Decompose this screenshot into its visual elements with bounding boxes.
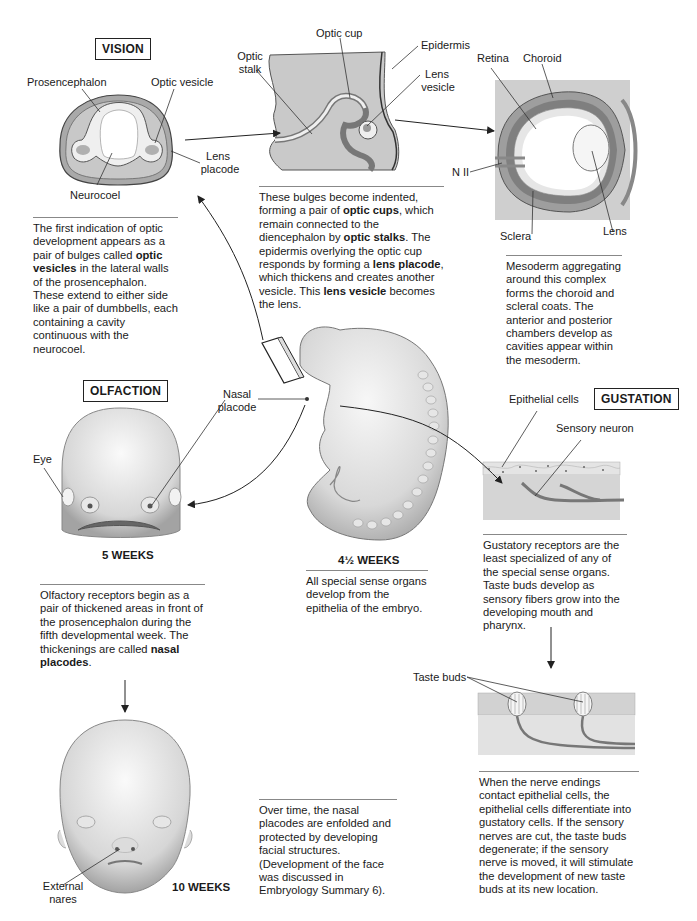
label-external-nares-line2: nares (38, 893, 88, 906)
caption-text: in the lateral walls of the prosencephal… (33, 262, 178, 354)
term-lens-vesicle: lens vesicle (323, 285, 386, 297)
optic-cup-illustration (269, 52, 399, 170)
label-n-ii: N II (452, 166, 469, 179)
vision-title: VISION (95, 38, 151, 60)
caption-embryo: All special sense organs develop from th… (306, 570, 428, 615)
label-optic-vesicle: Optic vesicle (151, 76, 213, 89)
head-10-weeks-illustration (58, 720, 192, 893)
caption-optic-cups: These bulges become indented, forming a … (259, 186, 444, 312)
term-lens-placode: lens placode (373, 258, 441, 270)
embryo-age: 4½ WEEKS (338, 554, 399, 566)
olfaction-title: OLFACTION (83, 380, 168, 402)
label-lens: Lens (603, 225, 627, 238)
label-prosencephalon: Prosencephalon (27, 76, 107, 89)
label-sclera: Sclera (500, 230, 531, 243)
label-lens-vesicle-line2: vesicle (416, 81, 460, 94)
label-epithelial-cells: Epithelial cells (509, 393, 579, 406)
label-nasal-placode-line1: Nasal (217, 388, 257, 401)
caption-taste-buds: When the nerve endings contact epithelia… (479, 771, 639, 897)
caption-enfolded-placodes: Over time, the nasal placodes are enfold… (259, 799, 397, 898)
label-optic-stalk-line2: stalk (230, 63, 270, 76)
embryo-illustration (262, 327, 448, 540)
head-5-weeks-illustration (62, 408, 181, 538)
caption-text: . (89, 656, 92, 668)
age-5-weeks: 5 WEEKS (102, 549, 154, 561)
age-10-weeks: 10 WEEKS (172, 881, 230, 893)
caption-text: Mesoderm aggregating around this complex… (506, 260, 621, 366)
sensory-neuron-epithelium-illustration (483, 462, 624, 520)
caption-text: Gustatory receptors are the least specia… (483, 539, 620, 631)
caption-mesoderm: Mesoderm aggregating around this complex… (506, 255, 622, 367)
caption-text: When the nerve endings contact epithelia… (479, 776, 633, 895)
caption-nasal-placodes: Olfactory receptors begin as a pair of t… (40, 584, 205, 669)
label-lens-vesicle-line1: Lens (419, 68, 455, 81)
caption-text: Over time, the nasal placodes are enfold… (259, 804, 391, 896)
label-retina: Retina (477, 52, 509, 65)
label-optic-cup: Optic cup (316, 27, 362, 40)
term-optic-cups: optic cups (343, 204, 399, 216)
label-nasal-placode-line2: placode (213, 401, 261, 414)
label-neurocoel: Neurocoel (70, 189, 120, 202)
leader-lines (44, 38, 613, 885)
label-external-nares-line1: External (38, 880, 88, 893)
label-eye: Eye (33, 453, 52, 466)
term-optic-stalks: optic stalks (344, 231, 406, 243)
gustation-title: GUSTATION (594, 388, 679, 410)
label-optic-stalk-line1: Optic (230, 50, 270, 63)
prosencephalon-cross-section-illustration (60, 95, 173, 185)
caption-gustatory-receptors: Gustatory receptors are the least specia… (483, 534, 627, 633)
label-lens-placode-line2: placode (200, 163, 240, 176)
taste-buds-illustration (478, 692, 635, 755)
label-choroid: Choroid (523, 52, 562, 65)
label-epidermis: Epidermis (421, 39, 470, 52)
caption-text: All special sense organs develop from th… (306, 575, 427, 614)
label-sensory-neuron: Sensory neuron (556, 422, 634, 435)
label-taste-buds: Taste buds (413, 671, 466, 684)
eye-development-illustration (495, 80, 636, 220)
label-lens-placode-line1: Lens (204, 150, 232, 163)
caption-optic-vesicles: The first indication of optic developmen… (33, 217, 178, 356)
